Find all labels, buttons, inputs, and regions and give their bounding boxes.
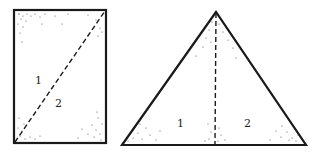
triangle-figure: 1 2: [122, 12, 306, 145]
triangle-region-1-label: 1: [177, 117, 184, 130]
rectangle-figure: 1 2: [14, 10, 106, 143]
triangle-outline: [122, 12, 306, 145]
rectangle-region-2-label: 2: [55, 97, 62, 110]
diagram-canvas: 1 2 1 2: [0, 0, 320, 154]
rectangle-region-1-label: 1: [35, 74, 42, 87]
triangle-region-2-label: 2: [244, 117, 251, 130]
